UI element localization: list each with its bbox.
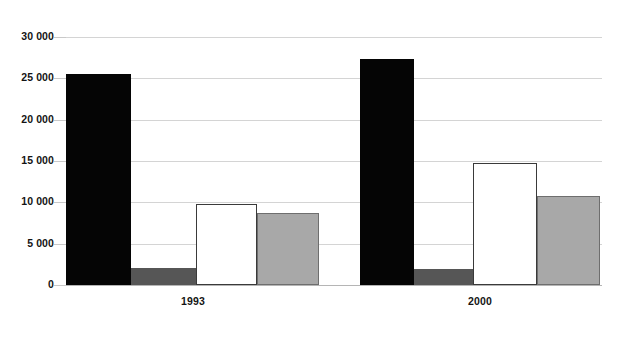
y-axis-tick: [54, 78, 66, 79]
y-axis-tick-label: 25 000: [2, 72, 54, 83]
plot-area: [66, 37, 602, 285]
y-axis-tick-label: 5 000: [2, 238, 54, 249]
bar-1993-series-1: [66, 74, 131, 285]
gridline: [66, 285, 602, 286]
y-axis-tick: [54, 37, 66, 38]
y-axis-tick: [54, 161, 66, 162]
bar-1993-series-3: [196, 204, 257, 285]
y-axis-tick: [54, 244, 66, 245]
y-axis-tick-label: 10 000: [2, 196, 54, 207]
y-axis-tick: [54, 285, 66, 286]
bar-1993-series-4: [257, 213, 319, 285]
bar-2000-series-4: [537, 196, 600, 285]
x-axis-label-1993: 1993: [181, 296, 205, 307]
y-axis-labels: 30 00025 00020 00015 00010 0005 0000: [0, 0, 54, 339]
bar-2000-series-3: [473, 163, 537, 285]
y-axis-tick-label: 30 000: [2, 31, 54, 42]
bar-2000-series-2: [414, 269, 473, 285]
y-axis-tick-label: 0: [2, 279, 54, 290]
y-axis-tick: [54, 120, 66, 121]
y-axis-tick-label: 15 000: [2, 155, 54, 166]
y-axis-tick-label: 20 000: [2, 114, 54, 125]
bar-1993-series-2: [131, 268, 196, 285]
x-axis-label-2000: 2000: [468, 296, 492, 307]
bar-chart: 30 00025 00020 00015 00010 0005 0000 199…: [0, 0, 630, 339]
y-axis-tick: [54, 202, 66, 203]
bar-2000-series-1: [360, 59, 414, 286]
